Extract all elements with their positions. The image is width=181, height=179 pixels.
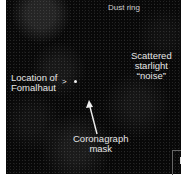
dust-ring-label: Dust ring [108,3,140,13]
location-pointer-icon: > [62,78,67,86]
scattered-line-3: “noise” [131,71,172,81]
fomalhaut-star-marker [74,80,77,83]
inset-frame-edge [172,150,181,175]
coronagraph-mask-label: Coronagraph mask [73,134,128,154]
coronagraph-arrow-icon [86,100,100,136]
coronagraph-line-2: mask [73,144,128,154]
fomalhaut-location-label: Location of Fomalhaut [11,73,57,93]
scattered-starlight-label: Scattered starlight “noise” [131,51,172,81]
location-line-2: Fomalhaut [11,83,57,93]
